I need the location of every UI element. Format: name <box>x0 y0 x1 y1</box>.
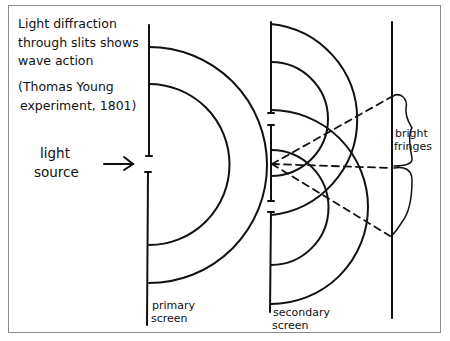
title-line-4: (Thomas Young <box>18 80 114 93</box>
arrow-icon <box>104 157 133 170</box>
bright-fringes-label-line-1: bright <box>395 128 428 140</box>
primary-screen <box>145 25 152 325</box>
secondary-screen-label-line-1: secondary <box>273 307 330 319</box>
title-line-3: wave action <box>18 54 93 67</box>
primary-wavefronts <box>149 47 267 283</box>
secondary-screen-label-line-2: screen <box>272 320 309 332</box>
lower-slit-wavefronts <box>271 110 368 304</box>
primary-screen-label-line-2: screen <box>151 313 188 325</box>
primary-screen-label-line-1: primary <box>152 300 195 312</box>
title-line-5: experiment, 1801) <box>20 99 136 112</box>
bright-fringes-brace <box>391 95 412 236</box>
light-source-label-line-1: light <box>40 146 70 160</box>
fringe-rays <box>272 96 393 236</box>
title-line-2: through slits shows <box>18 36 139 49</box>
bright-fringes-label-line-2: fringes <box>394 141 432 153</box>
secondary-screen <box>268 22 274 312</box>
title-line-1: Light diffraction <box>18 17 117 30</box>
light-source-label-line-2: source <box>34 165 79 179</box>
